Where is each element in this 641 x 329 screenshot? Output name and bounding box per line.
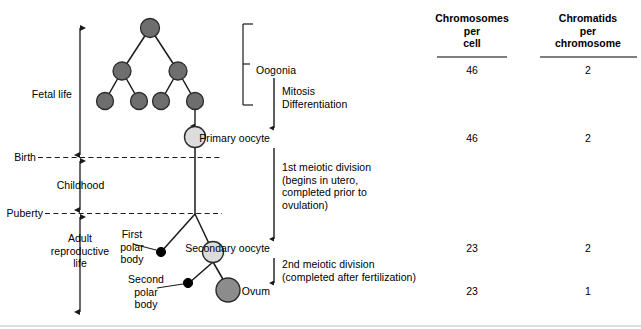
process-label-second-meiotic-division: 2nd meiotic division (completed after fe… — [282, 258, 416, 283]
oogonium-cell — [113, 62, 131, 80]
table-cell-chromatids-ovum: 1 — [528, 285, 641, 297]
oogonium-cell — [131, 93, 148, 110]
timeline-marker-birth: Birth — [0, 151, 36, 164]
stage-label-oogonia: Oogonia — [256, 64, 296, 77]
process-label-first-meiotic-division: 1st meiotic division (begins in utero, c… — [282, 161, 371, 211]
table-cell-chromosomes-secondary-oocyte: 23 — [424, 242, 520, 254]
process-label-mitosis-differentiation: Mitosis Differentiation — [282, 85, 347, 110]
stage-label-secondary-oocyte: Secondary oocyte — [150, 242, 270, 255]
table-header-chromosomes-per-cell: Chromosomes per cell — [424, 12, 520, 50]
table-header-chromatids-per-chromosome: Chromatids per chromosome — [528, 12, 641, 50]
second-polar-body-label: Second polar body — [116, 273, 176, 311]
table-cell-chromatids-secondary-oocyte: 2 — [528, 242, 641, 254]
table-cell-chromosomes-oogonia: 46 — [424, 64, 520, 76]
oogonium-cell — [97, 93, 114, 110]
timeline-stage-fetal-life: Fetal life — [0, 88, 72, 101]
second-meiotic-fork — [189, 262, 224, 283]
oogenesis-diagram: Fetal life Childhood Adult reproductive … — [0, 0, 641, 329]
oogonium-cell — [141, 19, 160, 38]
oogonium-cell — [169, 62, 187, 80]
table-cell-chromosomes-primary-oocyte: 46 — [424, 132, 520, 144]
table-cell-chromatids-primary-oocyte: 2 — [528, 132, 641, 144]
table-cell-chromatids-oogonia: 2 — [528, 64, 641, 76]
stage-label-ovum: Ovum — [200, 285, 270, 298]
oogonium-cell — [187, 93, 204, 110]
oogonium-cell — [153, 93, 170, 110]
timeline-stage-childhood: Childhood — [28, 179, 133, 192]
second-polar-body-cell — [183, 278, 192, 287]
timeline-marker-puberty: Puberty — [0, 207, 43, 220]
stage-label-primary-oocyte: Primary oocyte — [160, 132, 270, 145]
table-cell-chromosomes-ovum: 23 — [424, 285, 520, 297]
oogonia-bracket — [243, 24, 253, 105]
